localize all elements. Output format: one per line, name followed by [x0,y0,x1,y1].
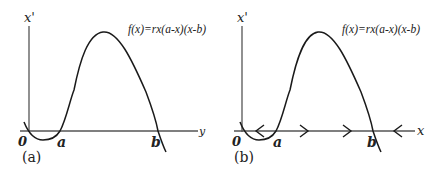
root-b-label: b [151,134,161,150]
x-axis-label: x [417,123,425,138]
panel-a: y x' f(x)=rx(a-x)(x-b) 0 a b (a) [18,10,206,165]
phase-diagram: y x' f(x)=rx(a-x)(x-b) 0 a b (a) x x' f(… [0,0,440,177]
root-b-label: b [367,134,377,150]
y-axis-label: x' [24,10,35,25]
root-a-label: a [273,134,282,150]
origin-label: 0 [232,134,241,149]
panel-label: (a) [22,149,41,165]
cubic-curve [240,32,381,152]
cubic-curve [24,32,166,152]
x-axis-label: y [198,125,206,138]
formula-label: f(x)=rx(a-x)(x-b) [342,23,420,36]
root-a-label: a [57,134,66,150]
panel-b: x x' f(x)=rx(a-x)(x-b) 0 a b (b) [232,10,425,165]
formula-label: f(x)=rx(a-x)(x-b) [128,23,206,36]
origin-label: 0 [18,134,27,149]
panel-label: (b) [234,149,254,165]
y-axis-label: x' [237,10,248,25]
